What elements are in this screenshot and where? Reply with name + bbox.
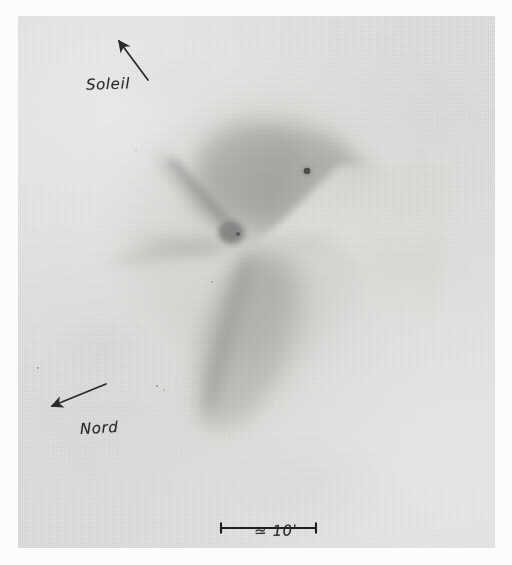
page-canvas: Soleil Nord ≃ 10' [0, 0, 512, 565]
sun-direction-label: Soleil [86, 74, 131, 94]
nucleus-point [236, 232, 240, 236]
field-star [302, 166, 312, 176]
photographic-plate: Soleil Nord ≃ 10' [18, 16, 495, 548]
north-direction-label: Nord [80, 418, 119, 438]
comet-image [18, 16, 495, 548]
scale-bar-label: ≃ 10' [254, 521, 298, 541]
comet-nucleus [215, 218, 249, 248]
